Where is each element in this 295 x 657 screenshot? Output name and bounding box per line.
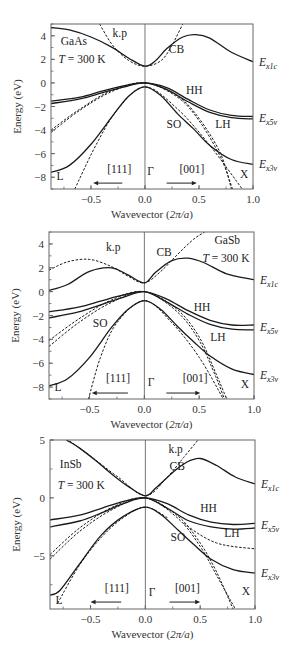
right-label-ex3v: Ex3v [258, 158, 278, 173]
panel-gaas: 420−2−4−6−8−0.50.00.51.0Wavevector (2π/a… [11, 24, 278, 221]
y-tick-label: 0 [40, 492, 46, 504]
y-tick-label: 2 [39, 262, 45, 274]
label-kp: k.p [106, 241, 121, 254]
band-hh-k-p [50, 498, 233, 609]
arrow-left-icon [92, 391, 97, 395]
label-direction-001: [001] [175, 582, 200, 594]
y-tick-label: −8 [32, 381, 44, 393]
label-direction-111: [111] [107, 163, 131, 175]
label-X-point: X [241, 378, 250, 390]
label-cb: CB [169, 43, 185, 55]
y-tick-label: −6 [32, 357, 44, 369]
band-structure-figure: 420−2−4−6−8−0.50.00.51.0Wavevector (2π/a… [0, 0, 295, 657]
label-X-point: X [242, 585, 251, 597]
label-L-point: L [55, 594, 62, 606]
y-tick-label: −8 [34, 171, 46, 183]
x-axis-label: Wavevector (2π/a) [112, 628, 194, 641]
label-gamma-point: Γ [147, 165, 154, 177]
label-direction-001: [001] [180, 163, 205, 175]
x-tick-label: 0.0 [138, 613, 152, 625]
y-tick-label: 2 [41, 53, 47, 65]
band-lh-k-p [50, 498, 235, 609]
x-axis-label: Wavevector (2π/a) [111, 208, 193, 221]
x-tick-label: −0.5 [80, 403, 100, 415]
label-direction-111: [111] [105, 582, 129, 594]
right-label-ex5v: Ex5v [259, 321, 279, 336]
panel-gasb: 420−2−4−6−8−0.50.00.51.0Wavevector (2π/a… [9, 232, 279, 431]
y-tick-label: 5 [40, 434, 46, 446]
arrow-left-icon [93, 181, 98, 185]
x-tick-label: 0.0 [138, 193, 152, 205]
y-tick-label: −2 [34, 101, 46, 113]
x-tick-label: 0.5 [192, 403, 206, 415]
label-X-point: X [240, 168, 249, 180]
x-tick-label: 1.0 [246, 193, 260, 205]
y-axis-label: Energy (eV) [10, 497, 23, 552]
label-L-point: L [56, 170, 63, 182]
label-temperature: T = 300 K [58, 479, 106, 491]
right-label-ex1c: Ex1c [259, 274, 279, 289]
y-tick-label: 4 [39, 238, 45, 250]
x-tick-label: 0.0 [137, 403, 151, 415]
arrow-right-icon [192, 181, 197, 185]
x-tick-label: 1.0 [248, 613, 262, 625]
label-cb: CB [169, 460, 185, 472]
label-material: GaAs [61, 35, 88, 47]
right-label-ex5v: Ex5v [258, 112, 278, 127]
x-tick-label: −0.5 [81, 613, 101, 625]
label-temperature: T = 300 K [202, 252, 250, 264]
y-tick-label: −4 [32, 333, 44, 345]
label-direction-001: [001] [183, 372, 208, 384]
right-label-ex3v: Ex3v [259, 369, 279, 384]
x-axis-label: Wavevector (2π/a) [111, 418, 193, 431]
right-label-ex1c: Ex1c [258, 56, 278, 71]
label-so: SO [167, 118, 182, 130]
label-so: SO [93, 317, 108, 329]
y-axis-label: Energy (eV) [9, 288, 22, 343]
y-tick-label: 4 [41, 30, 47, 42]
label-so: SO [171, 531, 186, 543]
panel-insb: 50−5−0.50.00.51.0Wavevector (2π/a)Energy… [10, 434, 280, 641]
x-tick-label: −0.5 [81, 193, 101, 205]
x-tick-label: 0.5 [192, 193, 206, 205]
x-tick-label: 1.0 [247, 403, 261, 415]
label-direction-111: [111] [106, 372, 130, 384]
label-hh: HH [186, 84, 203, 96]
band-hh [49, 292, 254, 326]
y-tick-label: 0 [41, 77, 47, 89]
y-tick-label: −6 [34, 148, 46, 160]
y-axis-label: Energy (eV) [11, 79, 24, 134]
arrow-right-icon [195, 600, 200, 604]
label-hh: HH [194, 301, 211, 313]
label-lh: LH [215, 118, 230, 130]
label-cb: CB [156, 246, 172, 258]
y-tick-label: −5 [33, 550, 45, 562]
right-label-ex3v: Ex3v [260, 567, 280, 582]
arrow-right-icon [195, 391, 200, 395]
right-label-ex1c: Ex1c [260, 478, 280, 493]
label-hh: HH [200, 502, 217, 514]
right-label-ex5v: Ex5v [260, 519, 280, 534]
x-tick-label: 0.5 [193, 613, 207, 625]
label-kp: k.p [113, 27, 128, 40]
label-lh: LH [210, 331, 225, 343]
label-L-point: L [54, 381, 61, 393]
label-material: InSb [60, 458, 82, 470]
label-material: GaSb [215, 234, 241, 246]
label-gamma-point: Γ [148, 376, 155, 388]
y-tick-label: −2 [32, 310, 44, 322]
label-gamma-point: Γ [149, 586, 156, 598]
label-kp: k.p [168, 443, 183, 456]
label-lh: LH [224, 527, 239, 539]
band-so [49, 301, 254, 386]
y-tick-label: 0 [39, 286, 45, 298]
band-cb-k-p [49, 232, 205, 283]
label-temperature: T = 300 K [59, 53, 107, 65]
band-hh [51, 83, 253, 117]
y-tick-label: −4 [34, 124, 46, 136]
arrow-left-icon [91, 600, 96, 604]
band-so-k-p [75, 87, 242, 189]
